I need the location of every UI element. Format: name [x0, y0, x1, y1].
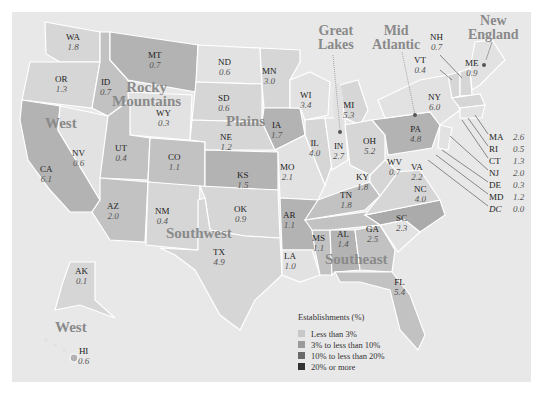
value: 1.5 [237, 180, 249, 190]
abbr: MS [312, 233, 325, 243]
region-ma-line2: Atlantic [372, 38, 420, 52]
value: 5.4 [394, 287, 405, 297]
hi-island [44, 338, 48, 342]
value: 0.5 [513, 143, 524, 155]
value: 2.5 [366, 234, 379, 244]
md-pointer [436, 155, 488, 194]
legend-swatch [298, 352, 305, 359]
callout-md: MD1.2 [489, 191, 524, 203]
state-az[interactable] [92, 178, 148, 242]
hi-island [53, 343, 57, 347]
abbr: NM [155, 206, 170, 216]
abbr: CO [168, 152, 181, 162]
value: 4.9 [213, 257, 225, 267]
lake-michigan [333, 83, 343, 127]
value: 0.7 [387, 167, 402, 177]
abbr: CT [489, 155, 513, 167]
label-wy: WY0.3 [156, 108, 171, 128]
abbr: NJ [489, 167, 513, 179]
abbr: ND [218, 57, 231, 67]
value: 0.4 [414, 65, 426, 75]
label-il: IL4.0 [309, 138, 320, 158]
value: 6.1 [40, 174, 53, 184]
label-ar: AR1.1 [283, 210, 296, 230]
value: 1.0 [284, 261, 296, 271]
label-ks: KS1.5 [237, 170, 249, 190]
label-fl: FL5.4 [394, 277, 405, 297]
ct-pointer [462, 120, 488, 158]
label-tn: TN1.8 [340, 190, 352, 210]
abbr: AR [283, 210, 296, 220]
label-nd: ND0.6 [218, 57, 231, 77]
region-great-lakes: Great Lakes [318, 24, 354, 52]
abbr: DE [489, 179, 513, 191]
value: 0.1 [75, 276, 88, 286]
value: 4.8 [410, 134, 421, 144]
label-hi: HI0.6 [78, 346, 89, 366]
label-ky: KY1.8 [356, 172, 369, 192]
abbr: KS [237, 170, 249, 180]
value: 0.3 [156, 118, 171, 128]
abbr: OH [363, 136, 376, 146]
value: 1.8 [66, 42, 80, 52]
region-ma-line1: Mid [372, 24, 420, 38]
label-in: IN2.7 [333, 141, 344, 161]
label-ak: AK0.1 [75, 266, 88, 286]
label-va: VA2.2 [411, 162, 423, 182]
value: 0.6 [72, 158, 85, 168]
value: 3.4 [300, 100, 312, 110]
callout-ct: CT1.3 [489, 155, 524, 167]
label-wi: WI3.4 [300, 90, 312, 110]
label-pa: PA4.8 [410, 124, 421, 144]
label-me: ME0.9 [465, 58, 479, 78]
region-southeast: Southeast [325, 252, 388, 266]
abbr: MI [343, 100, 354, 110]
region-gl-line2: Lakes [318, 38, 354, 52]
abbr: AL [337, 229, 349, 239]
label-wa: WA1.8 [66, 32, 80, 52]
great-lakes-dot [338, 130, 342, 134]
label-oh: OH5.2 [363, 136, 376, 156]
value: 0.3 [513, 179, 524, 191]
ri-pointer [468, 118, 488, 146]
value: 1.8 [340, 200, 352, 210]
value: 1.3 [55, 84, 68, 94]
small-states-callout-list: MA2.6 RI0.5 CT1.3 NJ2.0 DE0.3 MD1.2 DC0.… [489, 131, 524, 215]
de-pointer [442, 150, 488, 182]
abbr: AZ [107, 201, 119, 211]
legend-item-lt3: Less than 3% [298, 328, 385, 339]
label-mi: MI5.3 [343, 100, 354, 120]
state-nj[interactable] [438, 125, 452, 150]
abbr: WV [387, 157, 402, 167]
region-new-england: New England [468, 14, 519, 42]
legend-label: 20% or more [311, 362, 355, 372]
callout-de: DE0.3 [489, 179, 524, 191]
value: 1.4 [337, 239, 349, 249]
region-rocky-line1: Rocky [112, 80, 181, 94]
legend-item-10to20: 10% to less than 20% [298, 350, 385, 361]
state-hi[interactable] [70, 354, 78, 362]
legend-label: 3% to less than 10% [311, 340, 380, 350]
region-rocky-line2: Mountains [112, 94, 181, 108]
value: 0.7 [100, 87, 111, 97]
legend-swatch [298, 341, 305, 348]
label-nc: NC4.0 [414, 184, 427, 204]
region-west: West [45, 116, 77, 130]
abbr: NE [220, 132, 232, 142]
label-ca: CA6.1 [40, 164, 53, 184]
state-ct-ri[interactable] [460, 105, 485, 118]
value: 2.7 [333, 151, 344, 161]
value: 1.1 [312, 243, 325, 253]
region-southwest: Southwest [166, 226, 232, 240]
value: 5.2 [363, 146, 376, 156]
legend-title: Establishments (%) [298, 312, 385, 322]
value: 1.2 [220, 142, 232, 152]
abbr: OR [55, 74, 68, 84]
label-vt: VT0.4 [414, 55, 426, 75]
abbr: ME [465, 58, 479, 68]
region-rocky-mountains: Rocky Mountains [112, 80, 181, 108]
abbr: LA [284, 251, 296, 261]
callout-dc: DC0.0 [489, 203, 524, 215]
callout-nj: NJ2.0 [489, 167, 524, 179]
label-sd: SD0.6 [218, 93, 230, 113]
